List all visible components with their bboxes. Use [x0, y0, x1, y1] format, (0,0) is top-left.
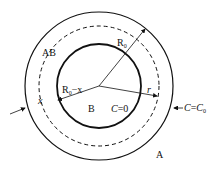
shrinking-core-diagram: AB B A R0 R0−x r x C=0 C=C0	[0, 0, 216, 178]
left-inflow-arrow	[10, 108, 25, 114]
label-AB: AB	[42, 47, 56, 58]
label-R0-minus-x: R0−x	[62, 84, 82, 96]
label-A: A	[156, 149, 164, 160]
label-core-condition: C=0	[111, 103, 128, 114]
label-r: r	[147, 84, 151, 95]
label-B: B	[88, 103, 95, 114]
label-surface-condition: C=C0	[184, 102, 206, 114]
label-x: x	[37, 95, 43, 106]
label-R0: R0	[117, 37, 127, 49]
